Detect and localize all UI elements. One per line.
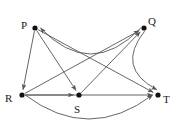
edge-q-to-t	[133, 31, 157, 90]
vertex-q	[141, 25, 146, 30]
edge-q-to-p	[40, 28, 140, 54]
edge-r-to-q	[25, 31, 139, 94]
vertex-label-p: P	[21, 20, 27, 31]
graph-diagram: PQRST	[0, 0, 182, 125]
edge-s-to-q	[81, 32, 140, 93]
edge-layer	[23, 28, 157, 119]
vertex-label-q: Q	[148, 16, 156, 27]
vertex-label-s: S	[74, 104, 80, 115]
edge-p-to-t	[38, 30, 153, 93]
vertex-p	[32, 25, 37, 30]
vertex-s	[76, 92, 81, 97]
vertex-label-t: T	[163, 94, 170, 105]
edge-p-to-r	[23, 31, 34, 90]
vertex-r	[19, 92, 24, 97]
edge-r-to-t	[25, 95, 152, 119]
vertex-t	[155, 92, 160, 97]
vertex-label-r: R	[5, 93, 12, 104]
